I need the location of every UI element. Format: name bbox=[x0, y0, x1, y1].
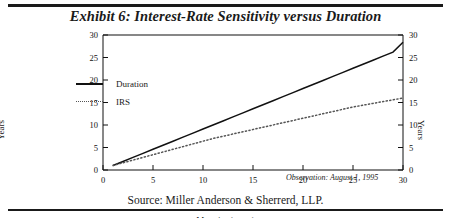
legend-line-icon-duration bbox=[76, 83, 103, 85]
bottom-rule bbox=[8, 209, 443, 211]
x-tick-label: 5 bbox=[140, 176, 166, 185]
y-tick-label-left: 10 bbox=[76, 121, 98, 130]
y-tick-label-right: 25 bbox=[409, 54, 431, 63]
x-tick-label: 0 bbox=[90, 176, 116, 185]
y-tick-label-right: 15 bbox=[409, 99, 431, 108]
y-axis-title-right: Years bbox=[416, 120, 426, 140]
y-axis-title-left: Years bbox=[0, 120, 6, 140]
y-tick-label-left: 0 bbox=[76, 166, 98, 175]
chart-canvas bbox=[0, 30, 451, 180]
x-tick-label: 10 bbox=[190, 176, 216, 185]
y-tick-label-left: 25 bbox=[76, 54, 98, 63]
legend-item-irs: IRS bbox=[76, 94, 206, 112]
chart-legend: Duration IRS bbox=[76, 76, 206, 112]
y-tick-label-right: 0 bbox=[409, 166, 431, 175]
exhibit-title: Exhibit 6: Interest-Rate Sensitivity ver… bbox=[0, 8, 451, 25]
top-rule bbox=[8, 4, 443, 7]
plot-area: 005510101515202025253030051015202530 Yea… bbox=[0, 30, 451, 180]
legend-label-duration: Duration bbox=[116, 76, 148, 92]
y-tick-label-right: 20 bbox=[409, 76, 431, 85]
x-tick-label: 15 bbox=[240, 176, 266, 185]
x-tick-label: 30 bbox=[390, 176, 416, 185]
legend-item-duration: Duration bbox=[76, 76, 206, 94]
exhibit-figure: Exhibit 6: Interest-Rate Sensitivity ver… bbox=[0, 0, 451, 218]
chart-annotation: Observation: August 1, 1995 bbox=[286, 173, 378, 182]
y-tick-label-right: 5 bbox=[409, 144, 431, 153]
y-tick-label-left: 30 bbox=[76, 31, 98, 40]
legend-label-irs: IRS bbox=[116, 94, 130, 110]
source-caption: Source: Miller Anderson & Sherrerd, LLP. bbox=[0, 194, 451, 206]
x-axis-title: Maturity (years) bbox=[0, 215, 451, 218]
y-tick-label-left: 5 bbox=[76, 144, 98, 153]
y-tick-label-right: 30 bbox=[409, 31, 431, 40]
legend-line-icon-irs bbox=[76, 101, 103, 102]
